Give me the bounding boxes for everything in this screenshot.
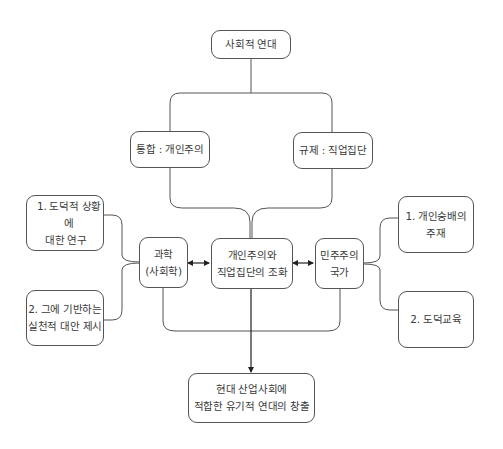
center-line2: 직업집단의 조화: [217, 264, 288, 281]
top-bracket: [170, 93, 332, 132]
left-item2-connector: [104, 263, 139, 320]
science-node: 과학 (사회학): [139, 237, 188, 288]
left-item2-line1: 2. 그에 기반하는: [28, 301, 102, 318]
right-item2-line1: 2. 도덕교육: [410, 311, 461, 328]
left-item1-line2: 대한 연구: [35, 232, 87, 249]
branch-label-integration: 통합 : 개인주의: [136, 141, 204, 158]
democracy-line2: 국가: [330, 264, 349, 281]
root-label: 사회적 연대: [225, 36, 277, 53]
left-item-practical-alternative: 2. 그에 기반하는 실천적 대안 제시: [26, 290, 104, 346]
root-node-social-solidarity: 사회적 연대: [211, 30, 291, 59]
right-item1-connector: [364, 218, 398, 263]
branch-node-integration: 통합 : 개인주의: [130, 131, 210, 168]
science-line1: 과학: [154, 246, 173, 263]
center-node-harmony: 개인주의와 직업집단의 조화: [211, 238, 293, 289]
center-line1: 개인주의와: [228, 247, 277, 264]
right-item-cult-of-individual: 1. 개인숭배의 주재: [398, 196, 474, 253]
right-item1-line2: 주재: [426, 225, 445, 242]
left-item2-line2: 실천적 대안 제시: [28, 318, 102, 335]
left-item1-line1: 1. 도덕적 상황에: [35, 198, 103, 232]
science-line2: (사회학): [145, 263, 182, 280]
left-branch-connector: [170, 167, 250, 238]
right-item1-line1: 1. 개인숭배의: [406, 208, 467, 225]
branch-node-regulation: 규제 : 직업집단: [293, 132, 373, 169]
left-item1-connector: [104, 215, 139, 262]
right-item-moral-education: 2. 도덕교육: [398, 291, 474, 348]
left-item-moral-study: 1. 도덕적 상황에 대한 연구: [26, 195, 104, 251]
right-item2-connector: [364, 264, 398, 310]
democracy-line1: 민주주의: [320, 247, 359, 264]
result-node-organic-solidarity: 현대 산업사회에 적합한 유기적 연대의 창출: [188, 373, 315, 423]
democracy-node: 민주주의 국가: [315, 238, 364, 289]
branch-label-regulation: 규제 : 직업집단: [299, 142, 367, 159]
right-branch-connector: [252, 168, 332, 238]
result-line1: 현대 산업사회에: [216, 381, 287, 398]
result-line2: 적합한 유기적 연대의 창출: [194, 398, 310, 415]
